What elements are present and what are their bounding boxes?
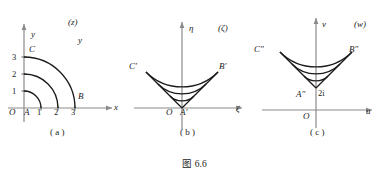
point-label-C-dprime: C″ [254, 45, 264, 54]
plane-label-w: (w) [354, 20, 366, 29]
origin-label-c: O [303, 112, 310, 121]
panel-a: (z) y [0, 0, 130, 150]
point-label-A-prime: A′ [180, 108, 187, 117]
y-tick-1-a: 1 [12, 87, 16, 96]
axis-label-eta-b: η [189, 24, 193, 33]
sub-caption-a: ( a ) [50, 128, 65, 137]
sub-caption-b: ( b ) [180, 128, 195, 137]
x-tick-3-a: 3 [71, 108, 75, 117]
point-label-C: C [29, 45, 35, 54]
plane-label-zeta: (ζ) [218, 24, 228, 33]
point-label-B-dprime: B″ [349, 45, 358, 54]
panel-a-plot [0, 0, 130, 150]
y-tick-2-a: 2 [12, 70, 16, 79]
point-label-B-prime: B′ [219, 62, 226, 71]
point-label-A: A [24, 108, 30, 117]
figure-caption: 图 6.6 [0, 156, 389, 170]
y-tick-3-a: 3 [12, 53, 16, 62]
sub-caption-c: ( c ) [310, 128, 325, 137]
axis-label-zeta-b: ζ [236, 105, 240, 114]
point-label-B: B [78, 92, 84, 101]
axis-label-y-a: y [31, 30, 35, 39]
origin-label-b: O [166, 108, 173, 117]
quarter-arcs [24, 57, 75, 108]
x-tick-2-a: 2 [54, 108, 58, 117]
marker-label-2i: 2i [318, 89, 325, 98]
axis-label-y: y [78, 36, 82, 45]
x-tick-1-a: 1 [37, 108, 41, 117]
axis-label-x-a: x [114, 103, 118, 112]
point-label-A-dprime: A″ [296, 90, 305, 99]
plane-label-z: (z) [68, 18, 78, 27]
origin-label-a: O [9, 108, 16, 117]
axis-lines [262, 18, 372, 128]
axis-label-u-c: u [366, 107, 371, 116]
axis-label-v-c: v [322, 20, 326, 29]
point-label-C-prime: C′ [129, 62, 137, 71]
figure-6-6: (z) y (ζ) [0, 0, 389, 172]
